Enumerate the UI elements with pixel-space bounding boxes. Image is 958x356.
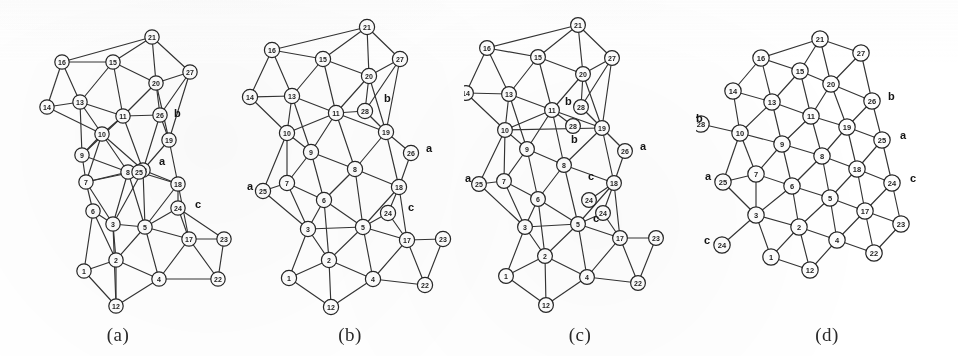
node-9: 9 [75, 148, 89, 162]
node-label: 14 [464, 90, 470, 97]
node-23: 23 [435, 231, 450, 246]
node-19: 19 [595, 121, 610, 136]
node-17: 17 [399, 232, 414, 247]
node-label: 10 [98, 131, 106, 138]
figure-graph-layouts: 2116152720141311261019928871862435172321… [0, 0, 958, 356]
node-20: 20 [149, 76, 163, 90]
node-8: 8 [347, 161, 362, 176]
node-2: 2 [321, 252, 336, 267]
edge [113, 172, 128, 224]
node-label: 24 [585, 197, 593, 204]
node-23: 23 [217, 232, 231, 246]
node-5: 5 [355, 219, 370, 234]
node-label: 6 [790, 182, 794, 191]
node-14: 14 [725, 83, 741, 99]
node-label: 20 [152, 80, 160, 87]
panel-a: 2116152720141311261019928871862435172321… [0, 0, 236, 356]
node-label: 23 [220, 236, 228, 243]
node-label: 10 [736, 129, 744, 138]
edge [128, 172, 145, 227]
node-12: 12 [323, 299, 338, 314]
node-label: 19 [843, 123, 851, 132]
graph-b: 2116152720141311281019926872518624351723… [236, 0, 464, 356]
panel-d: 2127161520141326111910259871825624531723… [696, 0, 958, 356]
node-10: 10 [498, 123, 513, 138]
node-label: 23 [652, 235, 660, 242]
edge [323, 59, 336, 113]
node-27: 27 [605, 51, 620, 66]
node-label: 23 [439, 236, 447, 243]
node-23: 23 [649, 231, 664, 246]
node-label: 19 [598, 125, 606, 132]
node-13: 13 [764, 94, 780, 110]
node-18: 18 [391, 179, 406, 194]
node-12: 12 [109, 299, 123, 313]
port-label-a: a [159, 155, 166, 167]
node-label: 20 [365, 73, 373, 80]
node-13: 13 [73, 95, 87, 109]
node-label: 12 [112, 303, 120, 310]
node-label: 17 [616, 235, 624, 242]
node-15: 15 [106, 55, 120, 69]
node-16: 16 [55, 55, 69, 69]
node-label: 5 [143, 224, 147, 231]
node-22: 22 [866, 245, 882, 261]
node-4: 4 [152, 272, 166, 286]
node-label: 10 [501, 127, 509, 134]
node-1: 1 [281, 270, 296, 285]
node-7: 7 [497, 174, 512, 189]
node-23: 23 [893, 216, 909, 232]
node-label: 22 [421, 282, 429, 289]
node-label: 11 [332, 110, 340, 117]
node-label: 18 [853, 165, 861, 174]
node-label: 21 [363, 24, 371, 31]
node-label: 26 [868, 97, 876, 106]
node-label: 16 [757, 54, 765, 63]
node-5: 5 [571, 217, 586, 232]
node-3: 3 [106, 217, 120, 231]
node-9: 9 [520, 142, 535, 157]
node-label: 4 [585, 274, 589, 281]
node-26: 26 [403, 145, 418, 160]
node-9: 9 [774, 136, 790, 152]
panel-caption-c: (c) [464, 324, 696, 346]
node-label: 1 [287, 275, 291, 282]
graph-a: 2116152720141311261019928871862435172321… [0, 0, 236, 356]
node-label: 26 [156, 112, 164, 119]
node-label: 6 [91, 208, 95, 215]
node-26: 26 [864, 93, 880, 109]
node-26: 26 [153, 108, 167, 122]
edge [602, 128, 614, 183]
node-25: 25 [715, 174, 731, 190]
node-12: 12 [802, 262, 818, 278]
panel-c: 2116152720141311282810199268725186242435… [464, 0, 696, 356]
node-1: 1 [763, 249, 779, 265]
node-label: 13 [288, 93, 296, 100]
node-8: 8 [814, 148, 830, 164]
node-label: 25 [135, 169, 143, 176]
node-22: 22 [211, 272, 225, 286]
node-3: 3 [518, 220, 533, 235]
node-label: 16 [268, 47, 276, 54]
node-label: 19 [165, 137, 173, 144]
node-28: 28 [574, 100, 589, 115]
node-22: 22 [631, 276, 646, 291]
node-label: 15 [796, 67, 804, 76]
node-label: 4 [371, 276, 375, 283]
node-19: 19 [378, 124, 393, 139]
edge [538, 57, 552, 110]
node-21: 21 [571, 18, 586, 33]
node-label: 20 [579, 71, 587, 78]
node-5: 5 [138, 220, 152, 234]
node-label: 7 [754, 170, 758, 179]
node-11: 11 [545, 103, 560, 118]
node-label: 21 [148, 34, 156, 41]
port-label-c: c [195, 198, 201, 210]
edge [143, 115, 160, 170]
node-24: 24 [171, 201, 185, 215]
edge [505, 128, 602, 130]
edge [272, 27, 367, 50]
node-label: 12 [806, 266, 814, 275]
edge [263, 191, 308, 229]
node-6: 6 [86, 204, 100, 218]
